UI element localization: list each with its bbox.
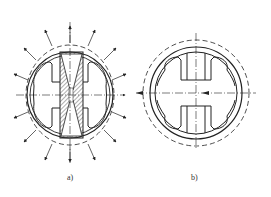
arrow-center-b <box>202 91 209 95</box>
panel-b-label: b) <box>191 173 198 182</box>
panel-a-label: a) <box>67 173 73 182</box>
panel-a <box>14 22 126 165</box>
panel-b <box>136 33 256 150</box>
arrow-left-b <box>136 91 143 95</box>
diagram-canvas <box>0 0 271 197</box>
figure: a) b) <box>0 0 271 197</box>
